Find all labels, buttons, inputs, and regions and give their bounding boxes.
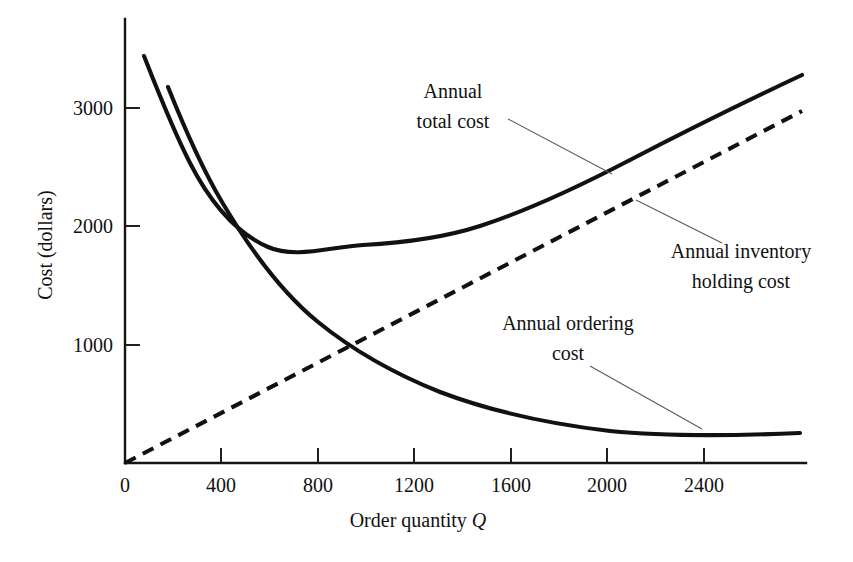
y-tick-label-3000: 3000	[73, 97, 113, 119]
y-axis-title: Cost (dollars)	[34, 190, 57, 299]
x-tick-label-2000: 2000	[587, 474, 627, 496]
annotation-annual-inventory-holding-cost-line1: Annual inventory	[671, 240, 812, 263]
eoq-cost-chart: 3000 2000 1000 0 400 800 1200 1600 2000 …	[0, 0, 853, 562]
x-axis-title-text: Order quantity	[350, 509, 472, 532]
y-tick-label-2000: 2000	[73, 215, 113, 237]
x-tick-label-1200: 1200	[394, 474, 434, 496]
annotation-annual-total-cost-leader	[508, 119, 612, 174]
y-axis-ticks: 3000 2000 1000	[73, 97, 140, 356]
x-axis-title-symbol: Q	[472, 509, 487, 531]
x-axis-title: Order quantity Q	[350, 509, 487, 532]
x-tick-label-0: 0	[120, 474, 130, 496]
y-tick-label-1000: 1000	[73, 334, 113, 356]
x-tick-label-1600: 1600	[491, 474, 531, 496]
annotation-annual-inventory-holding-cost: Annual inventory holding cost	[636, 200, 811, 293]
x-tick-label-400: 400	[206, 474, 236, 496]
x-tick-label-800: 800	[303, 474, 333, 496]
annotation-annual-ordering-cost-line2: cost	[552, 342, 585, 364]
annotation-annual-ordering-cost-leader	[590, 366, 702, 429]
x-tick-label-2400: 2400	[684, 474, 724, 496]
annotation-annual-inventory-holding-cost-line2: holding cost	[692, 270, 791, 293]
annotation-annual-ordering-cost-line1: Annual ordering	[502, 312, 634, 335]
annotation-annual-total-cost: Annual total cost	[417, 80, 612, 174]
annotation-annual-inventory-holding-cost-leader	[636, 200, 722, 243]
chart-figure: 3000 2000 1000 0 400 800 1200 1600 2000 …	[0, 0, 853, 562]
annotation-annual-ordering-cost: Annual ordering cost	[502, 312, 702, 429]
annotation-annual-total-cost-line2: total cost	[417, 110, 490, 132]
x-axis-ticks: 0 400 800 1200 1600 2000 2400	[120, 448, 724, 496]
annotation-annual-total-cost-line1: Annual	[424, 80, 483, 102]
